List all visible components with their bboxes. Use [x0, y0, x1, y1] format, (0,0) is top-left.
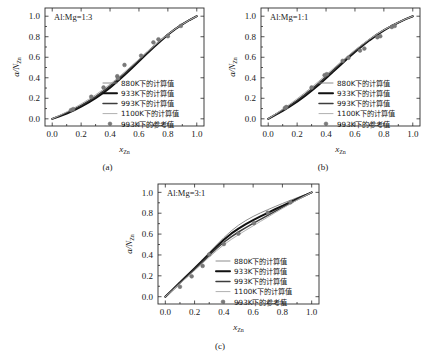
legend-entry-label: 993K下的计算值 — [121, 99, 174, 108]
y-tick-label: 0.8 — [245, 32, 257, 42]
legend-entry-label: 933K下的计算值 — [337, 89, 390, 98]
reference-data-point — [289, 200, 293, 204]
ratio-annotation: Al:Mg=1:1 — [270, 12, 308, 22]
legend-entry-label: 993K下的参考值 — [337, 120, 390, 129]
legend-marker-swatch — [221, 300, 225, 304]
legend-entry-label: 993K下的计算值 — [337, 99, 390, 108]
legend-entry-label: 1100K下的计算值 — [337, 109, 395, 118]
reference-data-point — [378, 34, 382, 38]
y-tick-label: 0.2 — [245, 93, 256, 103]
y-tick-label: 0.4 — [245, 73, 257, 83]
y-tick-label: 1.0 — [29, 11, 41, 21]
x-tick-label: 0.2 — [189, 307, 200, 317]
y-tick-label: 0.2 — [29, 93, 40, 103]
x-tick-label: 0.0 — [263, 129, 275, 139]
reference-data-point — [71, 107, 75, 111]
legend-entry-label: 993K下的计算值 — [234, 277, 287, 286]
legend-entry-label: 880K下的计算值 — [337, 79, 390, 88]
plot-a: 0.00.20.40.60.81.00.00.20.40.60.81.0Al:M… — [0, 0, 215, 165]
legend-entry-label: 993K下的参考值 — [234, 298, 287, 307]
ratio-annotation: Al:Mg=1:3 — [54, 12, 92, 22]
x-tick-label: 0.2 — [76, 129, 87, 139]
x-tick-label: 0.4 — [104, 129, 116, 139]
reference-data-point — [89, 95, 93, 99]
y-tick-label: 0.6 — [29, 52, 41, 62]
plot-b: 0.00.20.40.60.81.00.00.20.40.60.81.0Al:M… — [215, 0, 431, 165]
reference-data-point — [237, 232, 241, 236]
subplot-panel-a: 0.00.20.40.60.81.00.00.20.40.60.81.0Al:M… — [0, 0, 215, 178]
reference-data-point — [157, 37, 161, 41]
legend-entry-label: 880K下的计算值 — [121, 79, 174, 88]
reference-data-point — [190, 274, 194, 278]
legend-entry-label: 1100K下的计算值 — [234, 287, 292, 296]
y-tick-label: 1.0 — [142, 188, 154, 198]
reference-data-point — [116, 76, 120, 80]
panel-caption-b: (b) — [215, 162, 431, 172]
reference-data-point — [310, 86, 314, 90]
legend-entry-label: 933K下的计算值 — [234, 267, 287, 276]
x-tick-label: 1.0 — [306, 307, 318, 317]
y-tick-label: 0.0 — [245, 114, 257, 124]
y-axis-title: a/NZn — [124, 234, 135, 254]
subplot-panel-b: 0.00.20.40.60.81.00.00.20.40.60.81.0Al:M… — [215, 0, 431, 178]
x-tick-label: 0.8 — [378, 129, 390, 139]
x-axis-title: xZn — [334, 144, 346, 155]
x-tick-label: 0.6 — [133, 129, 145, 139]
x-tick-label: 0.4 — [218, 307, 230, 317]
x-tick-label: 1.0 — [407, 129, 419, 139]
legend-entry-label: 1100K下的计算值 — [121, 109, 179, 118]
reference-data-point — [123, 63, 127, 67]
y-tick-label: 0.6 — [245, 52, 257, 62]
reference-data-point — [325, 72, 329, 76]
x-tick-label: 0.4 — [320, 129, 332, 139]
reference-data-point — [284, 105, 288, 109]
reference-data-point — [347, 56, 351, 60]
y-tick-label: 0.6 — [142, 229, 154, 239]
y-tick-label: 0.8 — [29, 32, 41, 42]
subplot-panel-c: 0.00.20.40.60.81.00.00.20.40.60.81.0Al:M… — [110, 176, 330, 357]
y-tick-label: 0.4 — [29, 73, 41, 83]
legend-entry-label: 933K下的计算值 — [121, 89, 174, 98]
reference-data-point — [179, 24, 183, 28]
reference-data-point — [207, 253, 211, 257]
reference-data-point — [139, 54, 143, 58]
x-tick-label: 0.2 — [292, 129, 303, 139]
y-tick-label: 0.4 — [142, 250, 154, 260]
reference-data-point — [341, 59, 345, 63]
reference-data-point — [358, 49, 362, 53]
x-tick-label: 0.6 — [349, 129, 361, 139]
x-axis-title: xZn — [118, 144, 130, 155]
panel-caption-a: (a) — [0, 162, 215, 172]
y-tick-label: 0.2 — [142, 271, 153, 281]
y-axis-title: a/NZn — [227, 57, 238, 77]
x-tick-label: 0.0 — [47, 129, 59, 139]
panel-caption-c: (c) — [110, 341, 330, 351]
reference-data-point — [166, 34, 170, 38]
y-tick-label: 0.0 — [142, 292, 154, 302]
reference-data-point — [393, 24, 397, 28]
legend-entry-label: 880K下的计算值 — [234, 257, 287, 266]
reference-data-point — [362, 47, 366, 51]
legend-marker-swatch — [108, 122, 112, 126]
reference-data-point — [152, 40, 156, 44]
reference-data-point — [222, 242, 226, 246]
legend-entry-label: 993K下的参考值 — [121, 120, 174, 129]
x-tick-label: 1.0 — [191, 129, 203, 139]
y-axis-title: a/NZn — [11, 57, 22, 77]
reference-data-point — [178, 285, 182, 289]
figure-container: 0.00.20.40.60.81.00.00.20.40.60.81.0Al:M… — [0, 0, 431, 357]
x-tick-label: 0.6 — [248, 307, 260, 317]
reference-data-point — [252, 221, 256, 225]
y-tick-label: 1.0 — [245, 11, 257, 21]
y-tick-label: 0.8 — [142, 208, 154, 218]
x-axis-title: xZn — [232, 322, 244, 333]
ratio-annotation: Al:Mg=3:1 — [167, 188, 205, 198]
reference-data-point — [266, 211, 270, 215]
plot-c: 0.00.20.40.60.81.00.00.20.40.60.81.0Al:M… — [110, 176, 330, 344]
x-tick-label: 0.0 — [160, 307, 172, 317]
x-tick-label: 0.8 — [277, 307, 289, 317]
legend-marker-swatch — [324, 122, 328, 126]
x-tick-label: 0.8 — [162, 129, 174, 139]
reference-data-point — [201, 264, 205, 268]
y-tick-label: 0.0 — [29, 114, 41, 124]
